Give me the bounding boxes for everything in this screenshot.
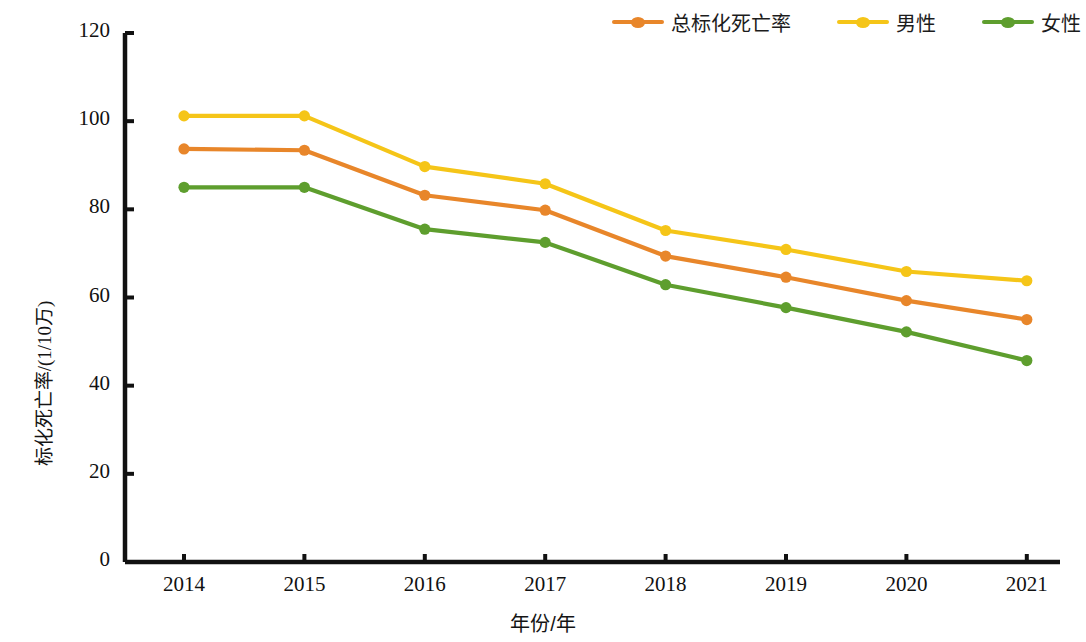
x-tick-label: 2021 <box>987 572 1067 597</box>
x-tick-label: 2018 <box>626 572 706 597</box>
x-tick-label: 2015 <box>264 572 344 597</box>
y-tick-label: 0 <box>64 547 110 572</box>
y-tick-label: 80 <box>64 194 110 219</box>
x-tick-label: 2020 <box>866 572 946 597</box>
y-tick-label: 60 <box>64 283 110 308</box>
x-tick-label: 2019 <box>746 572 826 597</box>
y-tick-label: 20 <box>64 459 110 484</box>
y-tick-label: 40 <box>64 371 110 396</box>
x-tick-label: 2017 <box>505 572 585 597</box>
x-tick-label: 2016 <box>385 572 465 597</box>
chart-figure: 总标化死亡率 男性 女性 标化死亡率/(1/10万) 年份/年 02040608… <box>0 0 1086 642</box>
x-tick-label: 2014 <box>144 572 224 597</box>
plot-area <box>0 0 1086 642</box>
y-tick-label: 120 <box>64 18 110 43</box>
y-tick-label: 100 <box>64 106 110 131</box>
